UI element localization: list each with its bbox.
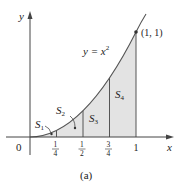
origin-label: 0 [16, 141, 22, 153]
svg-text:4: 4 [54, 149, 58, 158]
svg-text:1: 1 [80, 140, 84, 149]
svg-text:1: 1 [54, 140, 58, 149]
curve-label: y = x2 [82, 44, 110, 57]
tick-three-quarter: 3 4 [105, 140, 112, 158]
figure-caption: (a) [80, 169, 93, 182]
point-marker [134, 30, 138, 34]
svg-text:S2: S2 [56, 104, 66, 118]
svg-text:2: 2 [80, 149, 84, 158]
tick-one: 1 [134, 142, 139, 153]
tick-quarter: 1 4 [52, 140, 59, 158]
y-axis-label: y [18, 10, 24, 22]
point-label: (1, 1) [141, 27, 163, 39]
svg-text:3: 3 [107, 140, 111, 149]
svg-text:4: 4 [107, 149, 111, 158]
region-label-s1: S1 [35, 118, 53, 135]
tick-half: 1 2 [79, 140, 86, 158]
y-axis-arrow-icon [28, 11, 33, 19]
x-axis-label: x [166, 141, 172, 153]
svg-text:S1: S1 [35, 118, 45, 132]
area-under-parabola-diagram: y x 0 y = x2 (1, 1) 1 4 1 2 3 4 1 S1 S2 … [0, 0, 180, 189]
x-axis-arrow-icon [166, 135, 174, 140]
